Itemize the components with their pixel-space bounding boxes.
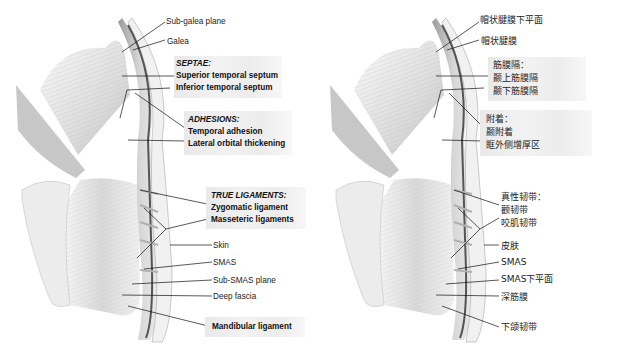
mandible-ramus xyxy=(22,181,70,307)
label-galea: Galea xyxy=(167,36,189,47)
label-galea: 帽状腱膜 xyxy=(481,35,517,47)
label-adhesions-header: 附着： xyxy=(486,113,513,125)
mandible-ramus xyxy=(336,181,384,307)
label-septae-header: SEPTAE: xyxy=(176,58,211,69)
label-zygomatic-ligament: 颧韧带 xyxy=(501,204,528,216)
label-masseteric-ligaments: Masseteric ligaments xyxy=(211,214,294,225)
label-inferior-temporal-septum: Inferior temporal septum xyxy=(176,82,272,93)
diagram-panel-english: Sub-galea plane Galea SEPTAE: Superior t… xyxy=(0,0,314,352)
label-true-ligaments-header: 真性韧带： xyxy=(501,191,546,203)
label-mandibular-ligament: Mandibular ligament xyxy=(212,321,292,332)
label-temporal-adhesion: 颞附着 xyxy=(486,126,513,138)
label-sub-smas-plane: Sub-SMAS plane xyxy=(213,275,276,286)
label-inferior-temporal-septum: 颞下筋膜隔 xyxy=(493,85,538,97)
label-temporal-adhesion: Temporal adhesion xyxy=(188,126,262,137)
label-skin: Skin xyxy=(213,240,229,251)
label-superior-temporal-septum: 颞上筋膜隔 xyxy=(493,72,538,84)
facial-anatomy-illustration xyxy=(0,0,314,352)
label-sub-smas-plane: SMAS下平面 xyxy=(501,273,553,285)
label-skin: 皮肤 xyxy=(501,240,519,252)
facial-anatomy-illustration xyxy=(314,0,628,352)
label-deep-fascia: Deep fascia xyxy=(213,291,256,302)
label-deep-fascia: 深筋膜 xyxy=(501,291,528,303)
label-smas: SMAS xyxy=(501,256,526,268)
label-adhesions-header: ADHESIONS: xyxy=(188,114,239,125)
label-sub-galea-plane: 帽状腱膜下平面 xyxy=(480,14,543,26)
label-septae-header: 筋膜隔： xyxy=(493,59,529,71)
label-zygomatic-ligament: Zygomatic ligament xyxy=(211,202,288,213)
label-mandibular-ligament: 下颌韧带 xyxy=(501,321,537,333)
label-lateral-orbital-thickening: Lateral orbital thickening xyxy=(188,138,285,149)
label-sub-galea-plane: Sub-galea plane xyxy=(166,16,226,27)
label-superior-temporal-septum: Superior temporal septum xyxy=(176,70,278,81)
label-smas: SMAS xyxy=(213,257,236,268)
label-masseteric-ligaments: 咬肌韧带 xyxy=(501,217,537,229)
label-lateral-orbital-thickening: 眶外侧增厚区 xyxy=(486,139,540,151)
diagram-panel-chinese: 帽状腱膜下平面 帽状腱膜 筋膜隔： 颞上筋膜隔 颞下筋膜隔 附着： 颞附着 眶外… xyxy=(314,0,628,352)
label-true-ligaments-header: TRUE LIGAMENTS: xyxy=(211,190,287,201)
